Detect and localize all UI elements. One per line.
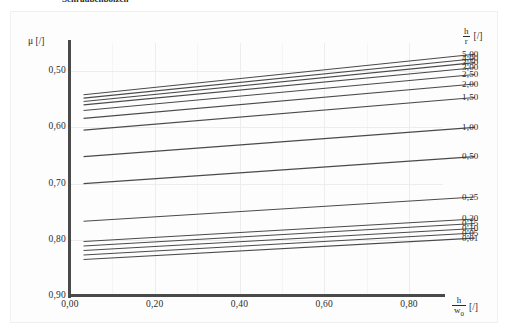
gridline-vertical-minor <box>367 43 368 296</box>
gridline-horizontal <box>70 71 443 72</box>
x-tick-label: 0,40 <box>215 299 265 309</box>
legend: h r [/] <box>462 25 508 50</box>
gridline-vertical <box>155 43 156 296</box>
y-tick-label: 0,60 <box>26 121 66 131</box>
gridline-vertical-minor <box>282 43 283 296</box>
x-tick-label: 0,00 <box>45 299 95 309</box>
x-axis-denominator: w0 <box>452 305 466 318</box>
gridline-vertical-minor <box>112 43 113 296</box>
x-axis-line <box>68 294 445 297</box>
legend-denominator: r <box>463 36 470 46</box>
x-axis-unit: [/] <box>469 302 478 312</box>
legend-item-label: 0,25 <box>462 192 479 202</box>
gridline-horizontal <box>70 184 443 185</box>
chart-page: Schraubenbolzen μ [/] 0,900,800,700,600,… <box>0 0 511 336</box>
plot-area <box>70 43 443 296</box>
gridline-vertical <box>324 43 325 296</box>
x-axis-title: h w0 [/] <box>452 296 478 318</box>
legend-title: h r [/] <box>462 25 508 47</box>
gridline-vertical-minor <box>197 43 198 296</box>
legend-item-label: 1,50 <box>462 92 479 102</box>
y-axis-line <box>68 40 71 298</box>
gridline-horizontal <box>70 127 443 128</box>
y-tick-label: 0,50 <box>26 65 66 75</box>
legend-unit: [/] <box>474 31 483 41</box>
legend-item-label: 1,00 <box>462 122 479 132</box>
x-tick-label: 0,60 <box>299 299 349 309</box>
y-tick-labels: 0,900,800,700,600,50 <box>22 0 66 336</box>
gridline-horizontal <box>70 240 443 241</box>
figure-caption: Schraubenbolzen <box>62 0 282 4</box>
x-tick-label: 0,80 <box>384 299 434 309</box>
y-tick-label: 0,80 <box>26 234 66 244</box>
legend-item-label: 2,50 <box>462 69 479 79</box>
legend-item-label: 2,00 <box>462 79 479 89</box>
legend-numerator: h <box>462 27 471 36</box>
legend-fraction: h r <box>462 27 471 46</box>
x-axis-numerator: h <box>455 296 464 305</box>
legend-item-label: 0,01 <box>462 233 479 243</box>
gridline-vertical <box>409 43 410 296</box>
legend-item-label: 0,50 <box>462 151 479 161</box>
x-tick-label: 0,20 <box>130 299 180 309</box>
y-tick-label: 0,70 <box>26 178 66 188</box>
gridline-vertical <box>240 43 241 296</box>
x-axis-fraction: h w0 <box>452 296 466 318</box>
